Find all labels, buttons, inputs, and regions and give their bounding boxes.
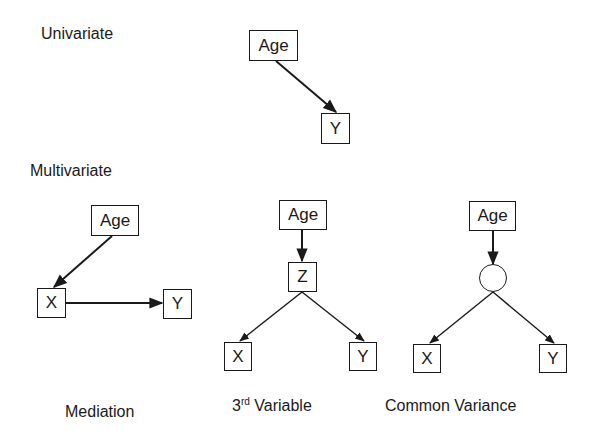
node-third-age: Age [279, 200, 327, 230]
edge-mediation-age-to-x [54, 236, 112, 287]
edge-common-latent-to-x [430, 292, 493, 343]
caption-mediation: Mediation [65, 403, 134, 421]
caption-third-superscript: rd [241, 396, 250, 407]
edge-third-z-to-y [302, 292, 364, 341]
caption-third-number: 3 [232, 397, 241, 414]
node-mediation-age: Age [91, 205, 139, 236]
node-third-z: Z [288, 262, 317, 292]
node-univariate-age: Age [249, 30, 298, 61]
node-common-age: Age [469, 201, 516, 231]
edge-third-z-to-x [240, 292, 302, 341]
edge-common-latent-to-y [493, 292, 554, 343]
edge-univariate-age-to-y [276, 61, 336, 112]
caption-common-variance: Common Variance [385, 397, 516, 415]
node-common-y: Y [539, 344, 567, 373]
node-common-latent-circle [479, 264, 507, 292]
caption-third-text: Variable [250, 397, 312, 414]
node-mediation-y: Y [163, 289, 192, 319]
node-third-x: X [224, 342, 252, 371]
node-third-y: Y [349, 342, 377, 371]
node-mediation-x: X [37, 288, 66, 318]
node-univariate-y: Y [321, 113, 350, 144]
node-common-x: X [413, 344, 441, 373]
caption-third-variable: 3rd Variable [232, 397, 312, 415]
